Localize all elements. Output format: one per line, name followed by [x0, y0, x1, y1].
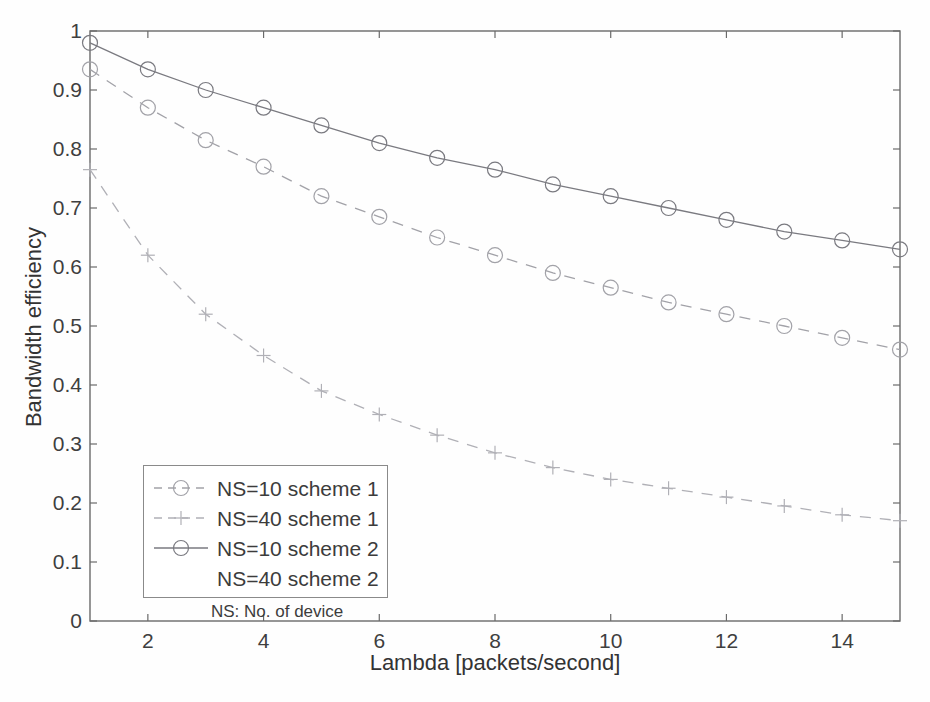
- y-tick-label: 0.8: [53, 137, 82, 160]
- series-line: [90, 43, 900, 250]
- y-tick-label: 0.7: [53, 196, 82, 219]
- legend-item-label: NS=40 scheme 1: [217, 508, 379, 529]
- dashed-plus-line-sample: [152, 508, 210, 528]
- dashed-circle-line-sample: [152, 478, 210, 498]
- y-tick-label: 0.9: [53, 78, 82, 101]
- chart-canvas: 246810121400.10.20.30.40.50.60.70.80.91: [0, 0, 930, 702]
- solid-circle-line-sample: [152, 538, 210, 558]
- x-tick-label: 2: [142, 629, 154, 652]
- figure-container: 246810121400.10.20.30.40.50.60.70.80.91 …: [0, 0, 930, 702]
- legend: NS=10 scheme 1 NS=40 scheme 1 NS=10 sche…: [143, 465, 388, 598]
- y-axis-label: Bandwidth efficiency: [21, 227, 47, 427]
- legend-item: NS=10 scheme 2: [152, 533, 387, 563]
- x-axis-label: Lambda [packets/second]: [90, 650, 900, 676]
- legend-sample-svg: [152, 508, 210, 528]
- legend-sample-svg: [152, 538, 210, 558]
- y-tick-label: 0.5: [53, 314, 82, 337]
- series-line: [90, 69, 900, 349]
- y-tick-label: 0.3: [53, 432, 82, 455]
- legend-item-label: NS=10 scheme 2: [217, 538, 379, 559]
- x-tick-label: 12: [715, 629, 738, 652]
- x-tick-label: 14: [830, 629, 854, 652]
- circle-marker-icon: [256, 159, 271, 174]
- y-tick-label: 0.6: [53, 255, 82, 278]
- x-tick-label: 4: [258, 629, 270, 652]
- y-tick-label: 0: [70, 609, 82, 632]
- legend-item: NS=40 scheme 1: [152, 503, 387, 533]
- y-tick-label: 0.2: [53, 491, 82, 514]
- x-tick-label: 8: [489, 629, 501, 652]
- y-tick-label: 0.1: [53, 550, 82, 573]
- circle-marker-icon: [198, 133, 213, 148]
- legend-sample-svg: [152, 478, 210, 498]
- series-ns-10-scheme-2: [83, 35, 908, 256]
- x-tick-label: 6: [373, 629, 385, 652]
- y-tick-label: 1: [70, 19, 82, 42]
- legend-item: NS=10 scheme 1: [152, 473, 387, 503]
- empty-line-sample: [152, 568, 210, 588]
- y-tick-label: 0.4: [53, 373, 83, 396]
- legend-item-label: NS=10 scheme 1: [217, 478, 379, 499]
- legend-item: NS=40 scheme 2: [152, 563, 387, 593]
- legend-note: NS: No. of device: [211, 602, 343, 622]
- x-tick-label: 10: [599, 629, 622, 652]
- legend-item-label: NS=40 scheme 2: [217, 568, 379, 589]
